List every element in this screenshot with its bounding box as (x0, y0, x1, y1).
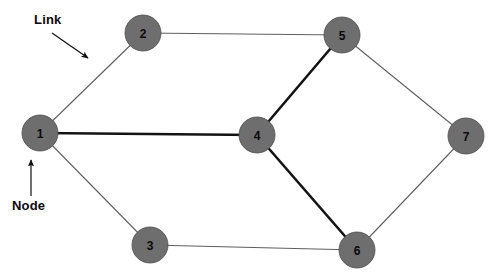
node-label-7: 7 (463, 130, 470, 144)
edge-5-7 (342, 35, 466, 136)
node-label-2: 2 (140, 27, 147, 41)
edge-1-4 (40, 133, 257, 135)
edge-3-6 (150, 245, 357, 250)
node-5[interactable]: 5 (324, 17, 360, 53)
network-diagram-canvas: 1234567 Link Node (0, 0, 500, 279)
node-2[interactable]: 2 (125, 15, 161, 51)
edge-2-5 (143, 33, 342, 35)
node-7[interactable]: 7 (448, 118, 484, 154)
edge-1-3 (40, 133, 150, 245)
node-3[interactable]: 3 (132, 227, 168, 263)
node-4[interactable]: 4 (239, 117, 275, 153)
node-label-3: 3 (147, 239, 154, 253)
node-1[interactable]: 1 (22, 115, 58, 151)
edge-1-2 (40, 33, 143, 133)
edge-6-7 (357, 136, 466, 250)
link-annotation-arrow-icon (52, 33, 88, 58)
edge-4-5 (257, 35, 342, 135)
nodes-layer: 1234567 (22, 15, 484, 268)
node-label-5: 5 (339, 29, 346, 43)
node-label-4: 4 (254, 129, 261, 143)
edge-4-6 (257, 135, 357, 250)
node-6[interactable]: 6 (339, 232, 375, 268)
link-annotation-label: Link (34, 12, 62, 27)
node-label-6: 6 (354, 244, 361, 258)
node-label-1: 1 (37, 127, 44, 141)
node-annotation-label: Node (12, 198, 45, 213)
network-diagram-svg: 1234567 (0, 0, 500, 279)
